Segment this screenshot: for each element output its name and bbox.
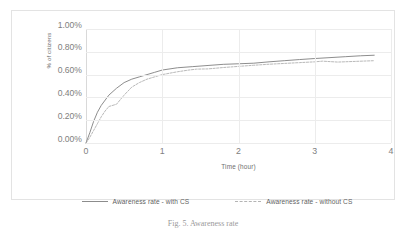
x-axis-tick-labels: 01234: [86, 147, 391, 161]
series-line-1: [86, 55, 374, 143]
series-line-2: [86, 61, 374, 143]
legend-line-icon: [235, 199, 261, 204]
figure-caption: Fig. 5. Awareness rate: [0, 219, 406, 228]
y-axis-tick: 0.00%: [40, 135, 82, 144]
vertical-gridline: [239, 29, 240, 143]
figure-container: % of citizens 0.00%0.20%0.40%0.60%0.80%1…: [0, 0, 406, 228]
y-axis-tick-labels: 0.00%0.20%0.40%0.60%0.80%1.00%: [40, 25, 82, 143]
y-axis-tick: 0.40%: [40, 89, 82, 98]
legend-item-label: Awareness rate - with CS: [113, 198, 190, 205]
plot-area: [86, 29, 391, 143]
x-axis-title: Time (hour): [86, 163, 391, 170]
x-axis-tick: 0: [71, 147, 101, 156]
chart-frame: % of citizens 0.00%0.20%0.40%0.60%0.80%1…: [11, 10, 395, 200]
vertical-gridline: [162, 29, 163, 143]
legend-item[interactable]: Awareness rate - with CS: [82, 198, 190, 205]
legend-line-icon: [82, 199, 108, 204]
y-axis-tick: 0.20%: [40, 112, 82, 121]
legend-item-label: Awareness rate - without CS: [266, 198, 352, 205]
y-axis-tick: 0.60%: [40, 66, 82, 75]
vertical-gridline: [391, 29, 392, 143]
y-axis-tick: 0.80%: [40, 43, 82, 52]
x-axis-tick: 3: [300, 147, 330, 156]
legend-item[interactable]: Awareness rate - without CS: [235, 198, 352, 205]
x-axis-tick: 4: [376, 147, 406, 156]
y-axis-tick: 1.00%: [40, 21, 82, 30]
horizontal-gridline: [86, 143, 391, 144]
vertical-gridline: [315, 29, 316, 143]
x-axis-tick: 2: [224, 147, 254, 156]
x-axis-tick: 1: [147, 147, 177, 156]
chart-legend: Awareness rate - with CSAwareness rate -…: [42, 194, 392, 208]
